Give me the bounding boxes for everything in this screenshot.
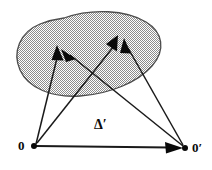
label-origin-prime: 0′ <box>192 141 202 154</box>
point-origin-dot <box>31 143 37 149</box>
label-delta-prime: Δ′ <box>94 118 107 132</box>
vector-diagram: 0 0′ Δ′ <box>0 0 212 170</box>
label-origin: 0 <box>18 139 25 152</box>
shaded-region <box>17 12 161 97</box>
diagram-canvas <box>0 0 212 170</box>
vector-origin-to-origin-prime <box>36 142 183 154</box>
point-origin-prime-dot <box>182 145 188 151</box>
